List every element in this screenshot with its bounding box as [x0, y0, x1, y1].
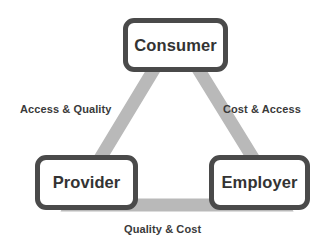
edge-label-consumer-employer: Cost & Access [223, 104, 301, 115]
node-provider[interactable]: Provider [35, 155, 138, 210]
node-employer[interactable]: Employer [209, 155, 310, 210]
diagram-canvas: Consumer Provider Employer Access & Qual… [0, 0, 332, 251]
edge-label-provider-employer: Quality & Cost [124, 224, 201, 235]
edge-label-consumer-provider: Access & Quality [20, 104, 111, 115]
node-provider-label: Provider [53, 174, 121, 191]
node-consumer-label: Consumer [134, 37, 216, 54]
node-consumer[interactable]: Consumer [123, 18, 228, 72]
node-employer-label: Employer [222, 174, 298, 191]
